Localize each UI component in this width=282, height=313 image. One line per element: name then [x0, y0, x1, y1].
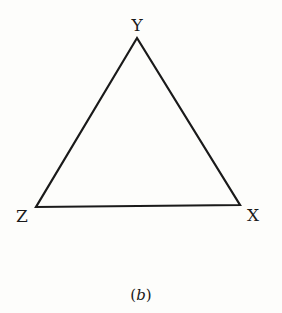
- caption-close-paren: ): [146, 286, 152, 304]
- triangle-xyz: [36, 38, 240, 207]
- vertex-label-x: X: [247, 205, 260, 225]
- figure-caption: (b): [130, 286, 151, 304]
- triangle-diagram: Y Z X (b): [0, 0, 282, 313]
- vertex-label-y: Y: [130, 15, 143, 35]
- vertex-label-z: Z: [16, 206, 28, 226]
- caption-letter: b: [136, 286, 146, 304]
